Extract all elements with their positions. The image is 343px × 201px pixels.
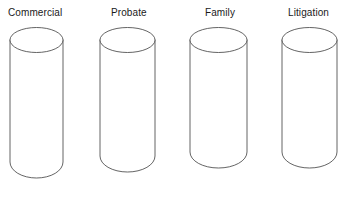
cylinder-shapes-layer	[0, 0, 343, 201]
cylinder-body-litigation	[282, 40, 337, 168]
cylinder-label-probate: Probate	[111, 7, 147, 19]
cylinder-top-ellipse-probate	[100, 28, 155, 53]
cylinder-body-family	[190, 40, 247, 168]
cylinder-diagram: Commercial Probate Family Litigation	[0, 0, 343, 201]
cylinder-top-ellipse-commercial	[10, 28, 63, 53]
cylinder-shape-probate	[100, 28, 155, 173]
cylinder-top-ellipse-litigation	[282, 28, 337, 53]
cylinder-label-family: Family	[205, 7, 235, 19]
cylinder-shape-commercial	[10, 28, 63, 179]
cylinder-shape-family	[190, 28, 247, 169]
cylinder-shape-litigation	[282, 28, 337, 169]
cylinder-body-commercial	[10, 40, 63, 178]
cylinder-label-commercial: Commercial	[8, 7, 62, 19]
cylinder-top-ellipse-family	[190, 28, 247, 53]
cylinder-body-probate	[100, 40, 155, 172]
cylinder-label-litigation: Litigation	[288, 7, 329, 19]
